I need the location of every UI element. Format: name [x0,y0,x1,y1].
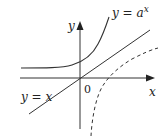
exponential-label-exponent: x [144,4,149,14]
function-graph: y x 0 y = ax y = x [0,0,167,139]
exponential-label-base: y = a [111,6,144,20]
exponential-curve [21,17,109,68]
identity-label: y = x [20,90,52,104]
y-axis-label: y [67,19,75,33]
x-axis-label: x [149,85,156,99]
logarithm-curve [91,48,158,136]
y-axis-arrow-icon [77,21,84,30]
exponential-label: y = ax [111,4,149,20]
x-axis-arrow-icon [146,75,155,82]
origin-label: 0 [84,83,91,96]
